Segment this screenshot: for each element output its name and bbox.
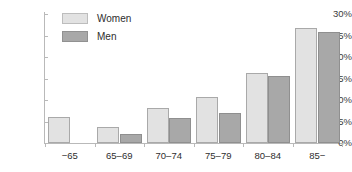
x-tick-label: −65 <box>45 150 95 161</box>
legend-label-women: Women <box>97 13 131 24</box>
legend-item-men: Men <box>62 29 131 44</box>
bar-women <box>147 108 169 143</box>
bar-women <box>246 73 268 143</box>
bar-chart: Women Men 0%5%10%15%20%25%30% −6565–6970… <box>0 0 352 172</box>
x-tick-label: 65–69 <box>95 150 145 161</box>
y-tick-mark <box>44 57 48 58</box>
bar-women <box>48 117 70 143</box>
y-tick-label: 30% <box>318 9 352 19</box>
y-tick-mark <box>44 36 48 37</box>
bar-women <box>196 97 218 143</box>
x-tick-mark <box>45 143 46 147</box>
x-tick-label: 70–74 <box>144 150 194 161</box>
bar-men <box>219 113 241 143</box>
x-tick-mark <box>95 143 96 147</box>
x-tick-label: 85− <box>293 150 343 161</box>
legend-swatch-men-icon <box>62 31 88 42</box>
legend-label-men: Men <box>97 31 116 42</box>
x-tick-label: 80–84 <box>243 150 293 161</box>
x-tick-label: 75–79 <box>194 150 244 161</box>
bar-women <box>97 127 119 143</box>
x-tick-mark <box>243 143 244 147</box>
bar-men <box>120 134 142 143</box>
x-tick-mark <box>342 143 343 147</box>
bar-men <box>268 76 290 143</box>
x-tick-mark <box>194 143 195 147</box>
y-tick-mark <box>44 14 48 15</box>
legend-swatch-women-icon <box>62 13 88 24</box>
bar-women <box>295 28 317 143</box>
x-tick-mark <box>144 143 145 147</box>
legend-item-women: Women <box>62 11 131 26</box>
bar-men <box>169 118 191 143</box>
y-tick-mark <box>44 79 48 80</box>
chart-legend: Women Men <box>62 11 131 47</box>
y-tick-mark <box>44 100 48 101</box>
bar-men <box>318 32 340 143</box>
x-tick-mark <box>293 143 294 147</box>
